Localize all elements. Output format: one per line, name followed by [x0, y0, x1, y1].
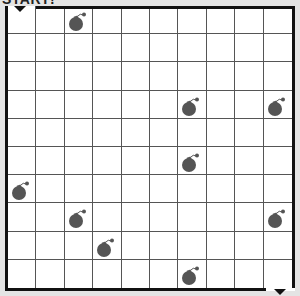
- grid-cell[interactable]: [264, 232, 292, 260]
- grid-cell[interactable]: [264, 91, 292, 119]
- grid-cell[interactable]: [235, 6, 263, 34]
- grid-cell[interactable]: [8, 34, 36, 62]
- grid-cell[interactable]: [207, 91, 235, 119]
- grid-cell[interactable]: [207, 203, 235, 231]
- grid-cell[interactable]: [8, 260, 36, 288]
- grid-cell[interactable]: [8, 175, 36, 203]
- grid-cell[interactable]: [122, 6, 150, 34]
- grid-cell[interactable]: [122, 62, 150, 90]
- grid-cell[interactable]: [36, 34, 64, 62]
- grid-cell[interactable]: [65, 6, 93, 34]
- grid-cell[interactable]: [93, 175, 121, 203]
- grid-cell[interactable]: [150, 147, 178, 175]
- grid-cell[interactable]: [8, 119, 36, 147]
- grid-cell[interactable]: [207, 6, 235, 34]
- grid-cell[interactable]: [122, 119, 150, 147]
- grid-cell[interactable]: [36, 6, 64, 34]
- grid-cell[interactable]: [65, 91, 93, 119]
- grid-cell[interactable]: [122, 203, 150, 231]
- grid-cell[interactable]: [93, 260, 121, 288]
- grid-cell[interactable]: [8, 232, 36, 260]
- grid-cell[interactable]: [264, 6, 292, 34]
- grid-cell[interactable]: [36, 147, 64, 175]
- grid-cell[interactable]: [150, 34, 178, 62]
- grid-cell[interactable]: [122, 260, 150, 288]
- grid-cell[interactable]: [150, 232, 178, 260]
- grid-cell[interactable]: [93, 232, 121, 260]
- grid-cell[interactable]: [235, 34, 263, 62]
- grid-cell[interactable]: [178, 6, 206, 34]
- grid-cell[interactable]: [235, 203, 263, 231]
- grid-cell[interactable]: [122, 175, 150, 203]
- grid-cell[interactable]: [65, 232, 93, 260]
- grid-cell[interactable]: [122, 147, 150, 175]
- grid-cell[interactable]: [150, 119, 178, 147]
- grid-cell[interactable]: [8, 62, 36, 90]
- grid-cell[interactable]: [264, 147, 292, 175]
- grid-cell[interactable]: [264, 203, 292, 231]
- grid-cell[interactable]: [207, 232, 235, 260]
- grid-cell[interactable]: [36, 62, 64, 90]
- grid-cell[interactable]: [93, 34, 121, 62]
- grid-cell[interactable]: [178, 175, 206, 203]
- grid-cell[interactable]: [235, 91, 263, 119]
- grid-cell[interactable]: [65, 147, 93, 175]
- grid-cell[interactable]: [122, 91, 150, 119]
- grid-cell[interactable]: [8, 147, 36, 175]
- grid-cell[interactable]: [207, 260, 235, 288]
- grid-cell[interactable]: [93, 6, 121, 34]
- grid-cell[interactable]: [93, 119, 121, 147]
- grid-cell[interactable]: [207, 119, 235, 147]
- grid-cell[interactable]: [93, 203, 121, 231]
- grid-cell[interactable]: [36, 260, 64, 288]
- grid-cell[interactable]: [178, 62, 206, 90]
- grid-cell[interactable]: [235, 175, 263, 203]
- grid-cell[interactable]: [65, 175, 93, 203]
- grid-cell[interactable]: [8, 203, 36, 231]
- grid-cell[interactable]: [36, 203, 64, 231]
- grid-cell[interactable]: [264, 62, 292, 90]
- grid-cell[interactable]: [207, 62, 235, 90]
- grid-cell[interactable]: [150, 260, 178, 288]
- grid-cell[interactable]: [122, 34, 150, 62]
- grid-cell[interactable]: [150, 203, 178, 231]
- grid-cell[interactable]: [235, 147, 263, 175]
- grid-cell[interactable]: [178, 260, 206, 288]
- grid-cell[interactable]: [150, 175, 178, 203]
- grid-cell[interactable]: [150, 91, 178, 119]
- grid-cell[interactable]: [36, 91, 64, 119]
- grid-cell[interactable]: [150, 62, 178, 90]
- grid-cell[interactable]: [8, 91, 36, 119]
- grid-cell[interactable]: [93, 91, 121, 119]
- grid-cell[interactable]: [178, 147, 206, 175]
- grid-cell[interactable]: [36, 232, 64, 260]
- grid-cell[interactable]: [178, 91, 206, 119]
- grid-cell[interactable]: [65, 62, 93, 90]
- grid-cell[interactable]: [264, 260, 292, 288]
- grid-cell[interactable]: [235, 232, 263, 260]
- grid-cell[interactable]: [235, 119, 263, 147]
- bomb-icon: [267, 97, 287, 117]
- grid-cell[interactable]: [65, 119, 93, 147]
- grid-cell[interactable]: [65, 34, 93, 62]
- grid-cell[interactable]: [93, 147, 121, 175]
- grid-cell[interactable]: [178, 34, 206, 62]
- grid-cell[interactable]: [65, 260, 93, 288]
- grid-cell[interactable]: [235, 260, 263, 288]
- grid-cell[interactable]: [36, 119, 64, 147]
- grid-cell[interactable]: [207, 147, 235, 175]
- grid-cell[interactable]: [264, 34, 292, 62]
- grid-cell[interactable]: [207, 175, 235, 203]
- grid-cell[interactable]: [264, 175, 292, 203]
- grid-cell[interactable]: [93, 62, 121, 90]
- grid-cell[interactable]: [264, 119, 292, 147]
- grid-cell[interactable]: [36, 175, 64, 203]
- grid-cell[interactable]: [150, 6, 178, 34]
- grid-cell[interactable]: [178, 203, 206, 231]
- grid-cell[interactable]: [235, 62, 263, 90]
- grid-cell[interactable]: [122, 232, 150, 260]
- grid-cell[interactable]: [178, 232, 206, 260]
- grid-cell[interactable]: [65, 203, 93, 231]
- grid-cell[interactable]: [178, 119, 206, 147]
- grid-cell[interactable]: [207, 34, 235, 62]
